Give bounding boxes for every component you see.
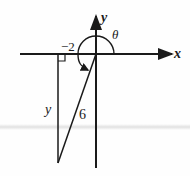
right-angle-marker xyxy=(58,54,65,61)
x-axis-label: x xyxy=(174,47,181,61)
horizontal-leg-label: −2 xyxy=(61,40,75,53)
diagram-canvas: x y θ −2 y 6 xyxy=(0,0,190,176)
angle-theta-label: θ xyxy=(112,28,118,41)
diagram-svg xyxy=(0,0,190,176)
y-axis-label: y xyxy=(101,11,107,25)
triangle-hypotenuse xyxy=(58,54,96,163)
hypotenuse-label: 6 xyxy=(79,108,86,122)
vertical-leg-label: y xyxy=(45,103,51,117)
reference-triangle xyxy=(58,54,96,163)
